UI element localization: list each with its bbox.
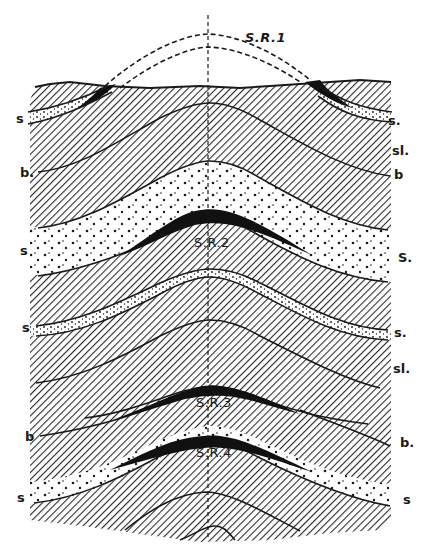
label-left-s-4: s [17,491,25,504]
label-sr1: S.R.1 [245,31,286,44]
label-sr2: S.R.2 [194,236,230,249]
label-right-s-3: s [403,493,411,506]
label-left-s-2: s [20,244,28,257]
label-right-s-1: s. [388,114,401,127]
label-right-S: S. [398,251,412,264]
label-sr4: S.R.4 [196,446,232,459]
label-right-b-1: b [394,168,403,181]
label-right-sl-1: sl. [392,144,409,157]
anticline-cross-section: S.R.1 S.R.2 S.R.3 S.R.4 s b. s s b s s. … [0,0,426,559]
label-left-b-1: b. [20,166,34,179]
label-left-b-2: b [25,430,34,443]
label-left-s-1: s [16,112,24,125]
label-right-s-2: s. [394,326,407,339]
cross-section-drawing [0,0,426,559]
label-sr3: S.R.3 [196,396,232,409]
label-right-sl-2: sl. [393,362,410,375]
label-right-b-2: b. [400,436,414,449]
label-left-s-3: s [22,321,30,334]
